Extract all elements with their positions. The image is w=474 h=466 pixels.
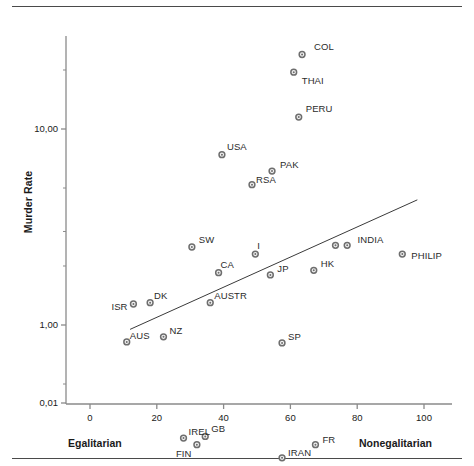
- y-tick-label: 10,00: [18, 123, 58, 134]
- data-point-label: GB: [211, 423, 225, 434]
- data-point-label: NZ: [169, 325, 182, 336]
- data-point-label: INDIA: [357, 234, 383, 245]
- data-point-center: [221, 154, 223, 156]
- data-point-label: COL: [314, 41, 334, 52]
- data-point-center: [269, 274, 271, 276]
- data-point-label: RSA: [256, 174, 276, 185]
- data-point-center: [191, 246, 193, 248]
- data-point-center: [346, 244, 348, 246]
- data-point-label: FR: [322, 434, 335, 445]
- figure-container: Murder Rate Egalitarian Nonegalitarian 1…: [0, 0, 474, 466]
- data-point-center: [126, 341, 128, 343]
- data-point-center: [301, 53, 303, 55]
- y-tick-label: 1,00: [18, 319, 58, 330]
- data-point-label: ISR: [111, 301, 127, 312]
- x-axis-left-annotation: Egalitarian: [68, 437, 122, 449]
- data-point-center: [281, 342, 283, 344]
- x-tick-label: 80: [342, 412, 372, 423]
- data-point-label: IREL: [189, 426, 211, 437]
- trend-line: [130, 200, 417, 330]
- x-tick-label: 0: [75, 412, 105, 423]
- data-point-label: SP: [288, 331, 301, 342]
- data-point-center: [162, 336, 164, 338]
- data-point-label: DK: [154, 290, 167, 301]
- data-point-label: IRAN: [288, 447, 311, 458]
- x-tick-label: 20: [142, 412, 172, 423]
- data-point-center: [314, 444, 316, 446]
- data-point-label: AUS: [130, 330, 150, 341]
- data-point-center: [251, 184, 253, 186]
- data-point-center: [293, 71, 295, 73]
- data-point-label: SW: [199, 234, 215, 245]
- y-tick-label: 0,01: [18, 397, 58, 408]
- scatter-plot-canvas: [0, 0, 474, 466]
- data-point-center: [254, 253, 256, 255]
- data-point-center: [183, 437, 185, 439]
- data-point-label: USA: [227, 141, 247, 152]
- x-tick-label: 40: [209, 412, 239, 423]
- data-point-center: [401, 253, 403, 255]
- x-axis-right-annotation: Nonegalitarian: [359, 437, 432, 449]
- data-point-label: CA: [221, 259, 234, 270]
- data-point-label: THAI: [302, 75, 324, 86]
- data-point-center: [132, 303, 134, 305]
- data-point-label: AUSTR: [214, 290, 247, 301]
- x-tick-label: 60: [275, 412, 305, 423]
- x-tick-label: 100: [409, 412, 439, 423]
- data-point-label: FIN: [176, 448, 192, 459]
- data-point-center: [313, 269, 315, 271]
- data-point-center: [149, 302, 151, 304]
- data-point-center: [196, 444, 198, 446]
- data-point-center: [271, 170, 273, 172]
- data-point-center: [298, 116, 300, 118]
- data-point-center: [281, 457, 283, 459]
- data-point-label: PHILIP: [411, 250, 442, 261]
- data-point-label: JP: [277, 263, 288, 274]
- y-axis-title: Murder Rate: [22, 152, 34, 252]
- data-point-label: I: [257, 240, 260, 251]
- data-point-label: PAK: [280, 159, 299, 170]
- data-point-label: PERU: [306, 103, 333, 114]
- data-point-center: [334, 244, 336, 246]
- data-point-center: [218, 272, 220, 274]
- data-point-label: HK: [321, 258, 334, 269]
- data-point-center: [209, 302, 211, 304]
